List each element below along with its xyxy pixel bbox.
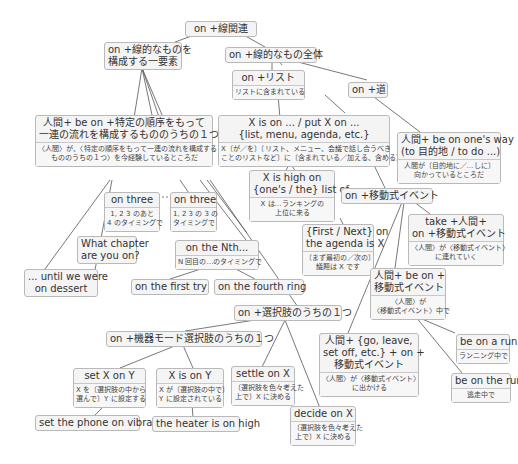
node-be-on-event: 人間+ be on + 移動式イベント 〈人間〉が 〈移動式イベント〉中で bbox=[370, 268, 446, 320]
node-title: on +移動式イベント bbox=[342, 189, 432, 203]
node-first-try: on the first try bbox=[131, 279, 209, 295]
node-title: on the fourth ring bbox=[215, 280, 303, 294]
node-sub: 1, 2 3 のあと 4 のタイミングで bbox=[105, 207, 159, 231]
node-sub: 逃走中で bbox=[452, 388, 510, 402]
node-sub: X が〔選択肢の中で〕 Y に設定されている bbox=[157, 383, 223, 407]
node-go-leave: 人間+ {go, leave, set off, etc.} + on + 移動… bbox=[319, 333, 419, 397]
node-choice: on +選択肢のうちの１つ bbox=[234, 305, 342, 321]
node-be-on-a-run: be on a run ランニング中で bbox=[456, 334, 510, 364]
node-high-on-list: X is high on {one's / the} list of ... X… bbox=[249, 170, 335, 222]
node-title: X is high on {one's / the} list of ... bbox=[250, 171, 334, 197]
node-what-chapter: What chapter are you on? bbox=[77, 236, 137, 264]
node-sub: N 回目の…のタイミングで bbox=[176, 255, 258, 269]
node-sub: X を〔選択肢の中から 選んで〕Y に設定する bbox=[74, 383, 145, 407]
node-x-is-on-y: X is on Y X が〔選択肢の中で〕 Y に設定されている bbox=[156, 368, 224, 408]
node-settle-on-x: settle on X 〔選択肢を色々考えた 上で〕X に決める bbox=[231, 366, 295, 406]
node-title: be on a run bbox=[457, 335, 509, 349]
node-title: on three bbox=[171, 193, 216, 207]
node-title: set X on Y bbox=[74, 369, 145, 383]
node-title: be on the run bbox=[452, 374, 510, 388]
node-root: on +線関連 bbox=[185, 21, 257, 37]
node-sub: 〈人間〉が〈移動式イベント〉 に出かける bbox=[320, 372, 418, 396]
node-ordered: 人間+ be on +特定の順序をもって 一連の流れを構成するもののうちの１つ … bbox=[35, 115, 213, 167]
node-title: settle on X bbox=[232, 367, 294, 381]
node-phone-vibrate: set the phone on vibrate bbox=[35, 415, 140, 431]
node-heater-high: the heater is on high bbox=[152, 416, 240, 432]
node-title: on +機器モード選択肢のうちの１つ bbox=[107, 332, 261, 346]
node-be-on-the-run: be on the run 逃走中で bbox=[451, 373, 511, 403]
node-title: on +選択肢のうちの１つ bbox=[235, 306, 341, 320]
node-set-x-on-y: set X on Y X を〔選択肢の中から 選んで〕Y に設定する bbox=[73, 368, 146, 408]
node-sub: 〔まず最初の／次の〕 議題は X です bbox=[303, 251, 373, 275]
node-sub: X〔が／を〕〔リスト、メニュー、会議で話し合うべき ことのリストなど〕に〔含まれ… bbox=[219, 142, 389, 166]
node-title: on +線関連 bbox=[186, 22, 256, 36]
node-linear-element: on +線的なものを 構成する一要素 bbox=[104, 42, 182, 70]
node-sub: 〔選択肢を色々考えた 上で〕X に決める bbox=[291, 421, 355, 445]
node-title: on three bbox=[105, 193, 159, 207]
node-title: on +線的なものを 構成する一要素 bbox=[105, 43, 181, 69]
node-title: on +線的なもの全体 bbox=[226, 48, 316, 62]
node-sub: 〈人間〉が〈移動式イベント〉 に連れていく bbox=[409, 241, 503, 265]
node-title: 人間+ be on + 移動式イベント bbox=[371, 269, 445, 295]
node-title: 人間+ be on +特定の順序をもって 一連の流れを構成するもののうちの１つ bbox=[36, 116, 212, 142]
node-until-dessert: ... until we were on dessert bbox=[24, 269, 98, 297]
node-sub: ランニング中で bbox=[457, 349, 509, 363]
node-on-three-b: on three 1, 2 3 の 3 の タイミングで bbox=[170, 192, 217, 232]
node-device-mode: on +機器モード選択肢のうちの１つ bbox=[106, 331, 262, 347]
node-sub: 〈人間〉が 〈移動式イベント〉中で bbox=[371, 295, 445, 319]
node-take-person: take +人間+ on +移動式イベント 〈人間〉が〈移動式イベント〉 に連れ… bbox=[408, 214, 504, 266]
node-title: 人間+ be on one's way (to 目的地 / to do ...) bbox=[398, 133, 500, 159]
node-title: on the Nth... bbox=[176, 241, 258, 255]
node-title: on +道 bbox=[349, 83, 387, 97]
node-title: 人間+ {go, leave, set off, etc.} + on + 移動… bbox=[320, 334, 418, 372]
node-x-is-on: X is on ... / put X on ... {list, menu, … bbox=[218, 115, 390, 167]
node-title: X is on Y bbox=[157, 369, 223, 383]
node-fourth-ring: on the fourth ring bbox=[214, 279, 304, 295]
node-linear-whole: on +線的なもの全体 bbox=[225, 47, 317, 63]
node-on-three-a: on three 1, 2 3 のあと 4 のタイミングで bbox=[104, 192, 160, 232]
node-title: {First / Next} on the agenda is X bbox=[303, 225, 373, 251]
node-title: decide on X bbox=[291, 407, 355, 421]
node-sub: 〈人間〉が、〈特定の順序をもって一連の流れを構成する もののうちの１つ〉を今経験… bbox=[36, 142, 212, 166]
node-road: on +道 bbox=[348, 82, 388, 98]
node-title: set the phone on vibrate bbox=[36, 416, 139, 430]
node-sub: リストに含まれている bbox=[233, 85, 304, 99]
node-moving-event: on +移動式イベント bbox=[341, 188, 433, 204]
node-title: the heater is on high bbox=[153, 417, 239, 431]
node-title: take +人間+ on +移動式イベント bbox=[409, 215, 503, 241]
node-nth: on the Nth... N 回目の…のタイミングで bbox=[175, 240, 259, 270]
node-title: What chapter are you on? bbox=[78, 237, 136, 263]
node-first-next: {First / Next} on the agenda is X 〔まず最初の… bbox=[302, 224, 374, 276]
node-sub: X は…ランキングの 上位に来る bbox=[250, 197, 334, 221]
node-list: on +リスト リストに含まれている bbox=[232, 70, 305, 100]
node-decide-on-x: decide on X 〔選択肢を色々考えた 上で〕X に決める bbox=[290, 406, 356, 446]
node-sub: 1, 2 3 の 3 の タイミングで bbox=[171, 207, 216, 231]
node-title: on +リスト bbox=[233, 71, 304, 85]
node-sub: 〔選択肢を色々考えた 上で〕X に決める bbox=[232, 381, 294, 405]
node-title: X is on ... / put X on ... {list, menu, … bbox=[219, 116, 389, 142]
node-title: on the first try bbox=[132, 280, 208, 294]
node-title: ... until we were on dessert bbox=[25, 270, 97, 296]
node-sub: 人間が〔目的地に／…しに〕 向かっているところだ bbox=[398, 159, 500, 183]
node-on-ones-way: 人間+ be on one's way (to 目的地 / to do ...)… bbox=[397, 132, 501, 184]
